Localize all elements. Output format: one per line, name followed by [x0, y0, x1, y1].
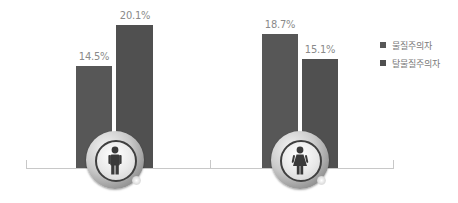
legend: 물질주의자 탈물질주의자 — [380, 36, 440, 72]
bar-chart: 14.5% 20.1% 18.7% 15.1% — [0, 0, 458, 203]
legend-item-materialist: 물질주의자 — [380, 36, 440, 54]
female-person-icon — [280, 136, 320, 182]
male-person-icon — [95, 136, 135, 182]
legend-swatch — [380, 60, 386, 66]
male-badge — [86, 131, 144, 189]
bar-value-label: 15.1% — [295, 43, 345, 56]
legend-swatch — [380, 42, 386, 48]
legend-item-postmaterialist: 탈물질주의자 — [380, 54, 440, 72]
axis-tick — [26, 160, 27, 169]
badge-glint — [132, 176, 141, 185]
legend-label: 탈물질주의자 — [392, 57, 440, 70]
badge-glint — [317, 176, 326, 185]
bar-value-label: 18.7% — [255, 18, 305, 31]
female-badge — [271, 131, 329, 189]
bar-value-label: 14.5% — [69, 50, 119, 63]
legend-label: 물질주의자 — [392, 39, 432, 52]
bar-value-label: 20.1% — [110, 9, 160, 22]
axis-tick — [393, 160, 394, 169]
